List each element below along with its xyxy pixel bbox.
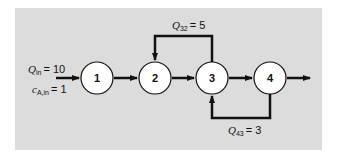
node-1-label: 1 <box>94 72 100 84</box>
node-2-label: 2 <box>152 72 158 84</box>
node-4-label: 4 <box>267 72 274 84</box>
node-1: 1 <box>81 62 113 94</box>
node-4: 4 <box>254 62 286 94</box>
node-3: 3 <box>196 62 228 94</box>
inflow-q-label: Qin= 10 <box>28 63 65 76</box>
node-2: 2 <box>139 62 171 94</box>
reactor-network-diagram: 1 2 3 4 Qin= 10 cA,in= 1 Q32= 5 Q43= 3 <box>0 0 337 155</box>
node-3-label: 3 <box>209 72 215 84</box>
